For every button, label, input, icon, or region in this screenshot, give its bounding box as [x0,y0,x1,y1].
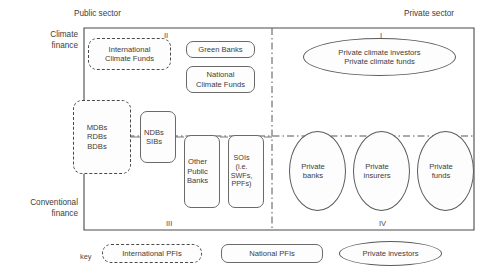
node-private-insurers-line2: insurers [363,171,390,180]
node-private-banks-label: Private banks [301,162,325,181]
node-private-funds-line2: funds [432,171,451,180]
node-sois-line1: SOIs [234,153,250,162]
node-sois-label: SOIs (i.e. SWFs, PPFs) [231,154,253,189]
key-title: key [80,252,92,261]
node-other-public-banks-line2: Public [187,167,208,176]
node-private-funds-label: Private funds [429,162,453,181]
node-green-banks[interactable]: Green Banks [186,41,255,58]
key-item-national-pfis[interactable]: National PFIs [221,244,323,263]
node-private-climate-investors[interactable]: Private climate investors Private climat… [303,38,456,76]
key-item-private-investors[interactable]: Private investors [339,241,442,266]
node-private-banks-line2: banks [303,171,323,180]
key-item-international-pfis[interactable]: International PFIs [102,244,202,263]
climate-finance-axis-label: Climate finance [8,30,78,51]
node-national-climate-funds-line1: National [207,70,235,79]
quadrant-label-iii: III [166,219,172,228]
node-ndbs-sibs-line2: SIBs [146,137,162,146]
quadrant-label-iv: IV [379,219,386,228]
node-international-climate-funds-label: International Climate Funds [105,45,154,64]
node-sois-line2: (i.e. [236,162,248,171]
node-international-climate-funds[interactable]: International Climate Funds [88,38,171,70]
node-international-climate-funds-line1: International [109,45,151,54]
conventional-finance-axis-label-line1: Conventional [2,198,78,209]
key-item-international-pfis-label: International PFIs [122,249,182,258]
node-national-climate-funds[interactable]: National Climate Funds [186,66,255,93]
public-sector-label: Public sector [74,9,121,18]
node-private-climate-investors-label: Private climate investors Private climat… [338,48,420,67]
node-national-climate-funds-line2: Climate Funds [196,80,245,89]
node-mdbs-rdbs-bdbs-line1: MDBs [87,123,108,132]
private-sector-label: Private sector [404,9,454,18]
node-sois[interactable]: SOIs (i.e. SWFs, PPFs) [228,135,264,208]
key-item-national-pfis-label: National PFIs [249,249,295,258]
node-mdbs-rdbs-bdbs-line2: RDBs [87,132,107,141]
node-ndbs-sibs[interactable]: NDBs SIBs [140,111,176,163]
node-other-public-banks-line1: Other [188,157,207,166]
node-sois-line3: SWFs, [231,171,253,180]
node-mdbs-rdbs-bdbs[interactable]: MDBs RDBs BDBs [73,100,131,174]
node-private-climate-investors-line2: Private climate funds [344,57,414,66]
node-ndbs-sibs-label: NDBs SIBs [144,128,164,147]
node-sois-line4: PPFs) [232,179,252,188]
node-private-funds-line1: Private [429,162,453,171]
node-private-insurers-line1: Private [365,162,389,171]
conventional-finance-axis-label: Conventional finance [2,198,78,219]
node-private-insurers-label: Private insurers [363,162,390,181]
node-mdbs-rdbs-bdbs-label: MDBs RDBs BDBs [87,123,108,151]
node-mdbs-rdbs-bdbs-line3: BDBs [87,142,106,151]
key-item-private-investors-label: Private investors [362,249,418,258]
conventional-finance-axis-label-line2: finance [2,209,78,220]
climate-finance-axis-label-line1: Climate [8,30,78,41]
node-international-climate-funds-line2: Climate Funds [105,54,154,63]
node-other-public-banks-line3: Banks [187,176,208,185]
node-ndbs-sibs-line1: NDBs [144,128,164,137]
node-private-climate-investors-line1: Private climate investors [338,48,420,57]
climate-finance-axis-label-line2: finance [8,41,78,52]
node-green-banks-label: Green Banks [198,45,242,54]
node-private-funds[interactable]: Private funds [417,131,474,211]
node-national-climate-funds-label: National Climate Funds [196,70,245,89]
node-private-insurers[interactable]: Private insurers [353,131,410,211]
node-private-banks[interactable]: Private banks [289,131,346,211]
node-private-banks-line1: Private [301,162,325,171]
node-other-public-banks[interactable]: Other Public Banks [184,135,220,208]
node-other-public-banks-label: Other Public Banks [187,157,208,185]
